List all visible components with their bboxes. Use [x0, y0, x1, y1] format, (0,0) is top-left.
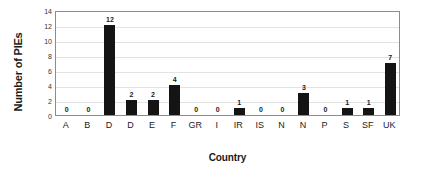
y-axis-tick-label: 12	[30, 23, 52, 30]
bar-slot: 0	[272, 12, 294, 115]
bar-slot: 2	[121, 12, 143, 115]
bar-slot: 1	[358, 12, 380, 115]
x-axis-tick-label: GR	[184, 120, 206, 131]
x-axis-tick-label: B	[77, 120, 99, 131]
bar	[385, 63, 396, 116]
bar-value-label: 3	[291, 84, 317, 91]
bar-slot: 2	[142, 12, 164, 115]
bar-slot: 1	[336, 12, 358, 115]
x-axis-tick-labels: ABDDEFGRIIRISNNPSSFUK	[55, 120, 400, 132]
y-axis-tick-label: 6	[30, 68, 52, 75]
x-axis-tick-label: E	[141, 120, 163, 131]
y-axis-tick-label: 0	[30, 113, 52, 120]
bar-slot: 0	[207, 12, 229, 115]
x-axis-tick-label: D	[98, 120, 120, 131]
y-axis-title: Number of PIEs	[9, 19, 27, 125]
bar-slot: 1	[229, 12, 251, 115]
bar	[169, 85, 180, 115]
bar	[363, 108, 374, 116]
bars-layer: 00122240010030117	[56, 12, 399, 115]
bar-slot: 0	[56, 12, 78, 115]
bar-value-label: 12	[97, 16, 123, 23]
bar-slot: 7	[379, 12, 401, 115]
plot-area: 00122240010030117	[55, 11, 400, 116]
x-axis-tick-label: D	[120, 120, 142, 131]
x-axis-tick-label: F	[163, 120, 185, 131]
y-axis-tick-label: 4	[30, 83, 52, 90]
bar-value-label: 4	[162, 76, 188, 83]
x-axis-title: Country	[55, 152, 400, 163]
bar-slot: 4	[164, 12, 186, 115]
bar	[148, 100, 159, 115]
x-axis-tick-label: P	[314, 120, 336, 131]
x-axis-tick-label: UK	[378, 120, 400, 131]
bar-value-label: 7	[377, 54, 403, 61]
bar-value-label: 0	[75, 106, 101, 113]
bar-slot: 0	[78, 12, 100, 115]
x-axis-tick-label: N	[271, 120, 293, 131]
x-axis-tick-label: N	[292, 120, 314, 131]
x-axis-tick-label: IR	[228, 120, 250, 131]
bar-value-label: 2	[140, 91, 166, 98]
bar	[126, 100, 137, 115]
bar-value-label: 1	[356, 99, 382, 106]
y-axis-tick-label: 8	[30, 53, 52, 60]
x-axis-tick-label: I	[206, 120, 228, 131]
y-axis-tick-labels: 02468101214	[30, 11, 52, 116]
x-axis-tick-label: S	[335, 120, 357, 131]
x-axis-tick-label: SF	[357, 120, 379, 131]
x-axis-tick-label: IS	[249, 120, 271, 131]
bar-slot: 0	[315, 12, 337, 115]
bar	[104, 25, 115, 115]
bar-value-label: 0	[269, 106, 295, 113]
y-axis-tick-label: 2	[30, 98, 52, 105]
bar-value-label: 1	[226, 99, 252, 106]
bar-value-label: 0	[205, 106, 231, 113]
bar	[342, 108, 353, 116]
bar	[298, 93, 309, 116]
bar-value-label: 0	[313, 106, 339, 113]
bar-slot: 3	[293, 12, 315, 115]
bar-slot: 0	[250, 12, 272, 115]
bar-slot: 12	[99, 12, 121, 115]
x-axis-tick-label: A	[55, 120, 77, 131]
y-axis-tick-label: 14	[30, 8, 52, 15]
bar-chart-figure: Number of PIEs 02468101214 0012224001003…	[0, 0, 425, 182]
bar-slot: 0	[185, 12, 207, 115]
y-axis-tick-label: 10	[30, 38, 52, 45]
bar	[234, 108, 245, 116]
